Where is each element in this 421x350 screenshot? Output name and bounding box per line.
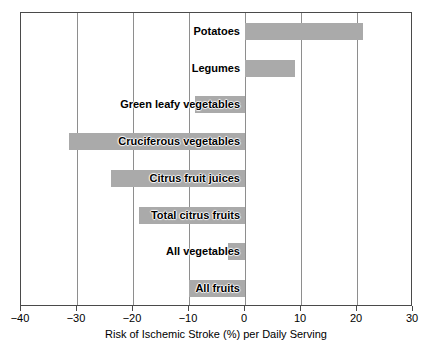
tick-label: 0: [224, 312, 264, 324]
tick-mark: [356, 306, 357, 311]
gridline: [357, 13, 358, 305]
category-label: Total citrus fruits: [148, 207, 243, 224]
gridline: [133, 13, 134, 305]
tick-mark: [76, 306, 77, 311]
tick-label: 10: [280, 312, 320, 324]
category-label: All fruits: [192, 280, 243, 297]
tick-mark: [20, 306, 21, 311]
tick-label: 20: [336, 312, 376, 324]
category-label: All vegetables: [163, 243, 243, 260]
gridline: [77, 13, 78, 305]
gridline: [189, 13, 190, 305]
tick-label: −40: [0, 312, 40, 324]
tick-mark: [412, 306, 413, 311]
plot-area: PotatoesLegumesGreen leafy vegetablesCru…: [21, 13, 411, 305]
category-label: Citrus fruit juices: [147, 170, 243, 187]
x-axis-title: Risk of Ischemic Stroke (%) per Daily Se…: [20, 328, 412, 340]
plot-frame: PotatoesLegumesGreen leafy vegetablesCru…: [20, 12, 412, 306]
tick-mark: [132, 306, 133, 311]
tick-label: 30: [392, 312, 421, 324]
category-label: Cruciferous vegetables: [115, 133, 243, 150]
tick-label: −10: [168, 312, 208, 324]
tick-mark: [244, 306, 245, 311]
category-label: Legumes: [189, 60, 243, 77]
stroke-risk-bar-chart: PotatoesLegumesGreen leafy vegetablesCru…: [0, 0, 421, 350]
category-label: Potatoes: [191, 23, 243, 40]
gridline: [301, 13, 302, 305]
tick-label: −30: [56, 312, 96, 324]
tick-label: −20: [112, 312, 152, 324]
tick-mark: [300, 306, 301, 311]
bar: [245, 23, 363, 40]
category-label: Green leafy vegetables: [117, 96, 243, 113]
bar: [245, 60, 295, 77]
tick-mark: [188, 306, 189, 311]
gridline: [245, 13, 246, 305]
